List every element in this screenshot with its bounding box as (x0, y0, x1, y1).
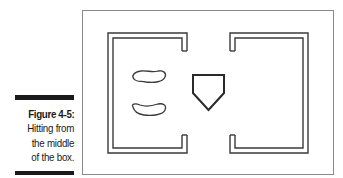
left-batters-box (108, 33, 187, 153)
footprint-icon (132, 104, 165, 116)
batters-box-diagram (0, 0, 343, 178)
footprint-icon (133, 71, 166, 83)
right-batters-box (230, 33, 308, 153)
home-plate-icon (193, 75, 224, 110)
